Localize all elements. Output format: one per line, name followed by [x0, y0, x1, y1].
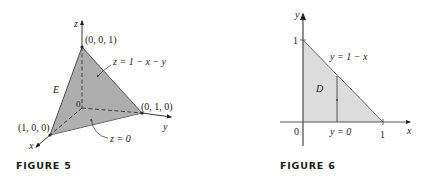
top-surface-label: z = 1 − x − y: [112, 56, 167, 67]
lower-boundary-label: y = 0: [329, 126, 351, 137]
x-axis: [36, 135, 50, 147]
bottom-surface-label: z = 0: [109, 133, 131, 144]
x-axis-label: x: [28, 140, 34, 151]
z-axis-label: z: [73, 18, 78, 29]
figure-5-tetrahedron: z (0, 0, 1) z = 1 − x − y E 0 (0, 1, 0) …: [16, 18, 173, 171]
figure-6-caption: FIGURE 6: [280, 160, 336, 171]
y-axis: [142, 113, 171, 117]
origin-label: 0: [294, 126, 299, 137]
y-axis-label: y: [294, 9, 300, 20]
point-001-label: (0, 0, 1): [85, 34, 117, 46]
figures-canvas: z (0, 0, 1) z = 1 − x − y E 0 (0, 1, 0) …: [0, 0, 437, 182]
point-100-label: (1, 0, 0): [18, 122, 50, 134]
upper-boundary-label: y = 1 − x: [329, 51, 368, 62]
x-axis-label: x: [406, 125, 412, 136]
y-tick-1-label: 1: [293, 35, 298, 46]
region-e-label: E: [52, 84, 59, 95]
origin-label: 0: [76, 99, 81, 109]
point-010-label: (0, 1, 0): [141, 101, 173, 113]
y-axis-label: y: [162, 121, 168, 132]
region-d-label: D: [315, 83, 324, 94]
figure-5-caption: FIGURE 5: [16, 160, 72, 171]
figure-6-region: y 1 y = 1 − x D 0 y = 0 1 x FIGURE 6: [280, 9, 412, 171]
vertex-top-dot: [80, 45, 83, 48]
strip-arrow-dot: [336, 99, 338, 101]
vertex-left-dot: [48, 133, 51, 136]
x-tick-1-label: 1: [380, 129, 385, 140]
